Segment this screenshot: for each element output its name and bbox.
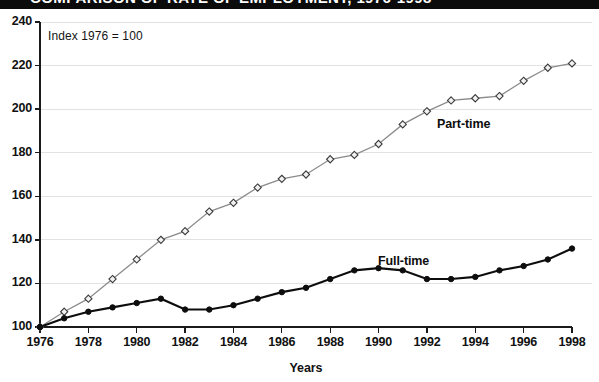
data-point-full-time-1995: [497, 268, 502, 273]
data-point-part-time-1984: [230, 199, 237, 206]
data-point-full-time-1998: [569, 246, 574, 251]
data-point-full-time-1993: [448, 276, 453, 281]
x-tick-label-1982: 1982: [162, 335, 208, 349]
y-tick-label-220: 220: [2, 58, 32, 72]
x-tick-label-1996: 1996: [501, 335, 547, 349]
y-tick-label-100: 100: [2, 319, 32, 333]
x-tick-label-1976: 1976: [17, 335, 63, 349]
y-tick-label-140: 140: [2, 232, 32, 246]
data-point-full-time-1986: [279, 289, 284, 294]
x-tick-label-1994: 1994: [452, 335, 498, 349]
x-tick-label-1978: 1978: [65, 335, 111, 349]
chart-page: COMPARISON OF RATE OF EMPLOYMENT, 1976-1…: [0, 0, 599, 382]
y-tick-label-180: 180: [2, 145, 32, 159]
data-point-full-time-1982: [182, 307, 187, 312]
chart-canvas: [0, 9, 599, 382]
index-note-annotation: Index 1976 = 100: [48, 29, 143, 43]
y-tick-label-240: 240: [2, 14, 32, 28]
data-point-full-time-1994: [473, 274, 478, 279]
data-point-full-time-1991: [400, 268, 405, 273]
x-tick-label-1984: 1984: [210, 335, 256, 349]
chart-title: COMPARISON OF RATE OF EMPLOYMENT, 1976-1…: [30, 0, 432, 6]
data-point-full-time-1992: [424, 276, 429, 281]
plot-area: Index 1976 = 100 Part-time Full-time 100…: [0, 9, 599, 382]
data-point-part-time-1995: [496, 92, 503, 99]
chart-title-band: COMPARISON OF RATE OF EMPLOYMENT, 1976-1…: [0, 0, 599, 9]
data-point-full-time-1997: [545, 257, 550, 262]
x-tick-label-1998: 1998: [549, 335, 595, 349]
y-tick-label-160: 160: [2, 188, 32, 202]
x-axis-title: Years: [246, 361, 366, 375]
data-point-part-time-1996: [520, 77, 527, 84]
data-point-full-time-1983: [207, 307, 212, 312]
data-point-part-time-1994: [472, 95, 479, 102]
x-tick-label-1986: 1986: [259, 335, 305, 349]
data-point-part-time-1987: [302, 171, 309, 178]
data-point-part-time-1988: [327, 156, 334, 163]
data-point-part-time-1977: [61, 308, 68, 315]
data-point-full-time-1976: [37, 324, 42, 329]
data-point-full-time-1977: [61, 316, 66, 321]
data-point-full-time-1980: [134, 300, 139, 305]
data-point-part-time-1985: [254, 184, 261, 191]
series-label-full-time: Full-time: [378, 254, 429, 268]
data-point-full-time-1984: [231, 303, 236, 308]
data-point-full-time-1996: [521, 263, 526, 268]
x-tick-label-1990: 1990: [356, 335, 402, 349]
y-tick-label-200: 200: [2, 101, 32, 115]
data-point-full-time-1981: [158, 296, 163, 301]
data-point-full-time-1988: [327, 276, 332, 281]
data-point-full-time-1989: [352, 268, 357, 273]
series-label-part-time: Part-time: [437, 117, 490, 131]
y-tick-label-120: 120: [2, 275, 32, 289]
data-point-part-time-1986: [278, 175, 285, 182]
data-point-full-time-1985: [255, 296, 260, 301]
data-point-full-time-1979: [110, 305, 115, 310]
data-point-full-time-1987: [303, 285, 308, 290]
data-point-full-time-1978: [86, 309, 91, 314]
x-tick-label-1980: 1980: [114, 335, 160, 349]
data-point-part-time-1993: [447, 97, 454, 104]
x-tick-label-1988: 1988: [307, 335, 353, 349]
x-tick-label-1992: 1992: [404, 335, 450, 349]
